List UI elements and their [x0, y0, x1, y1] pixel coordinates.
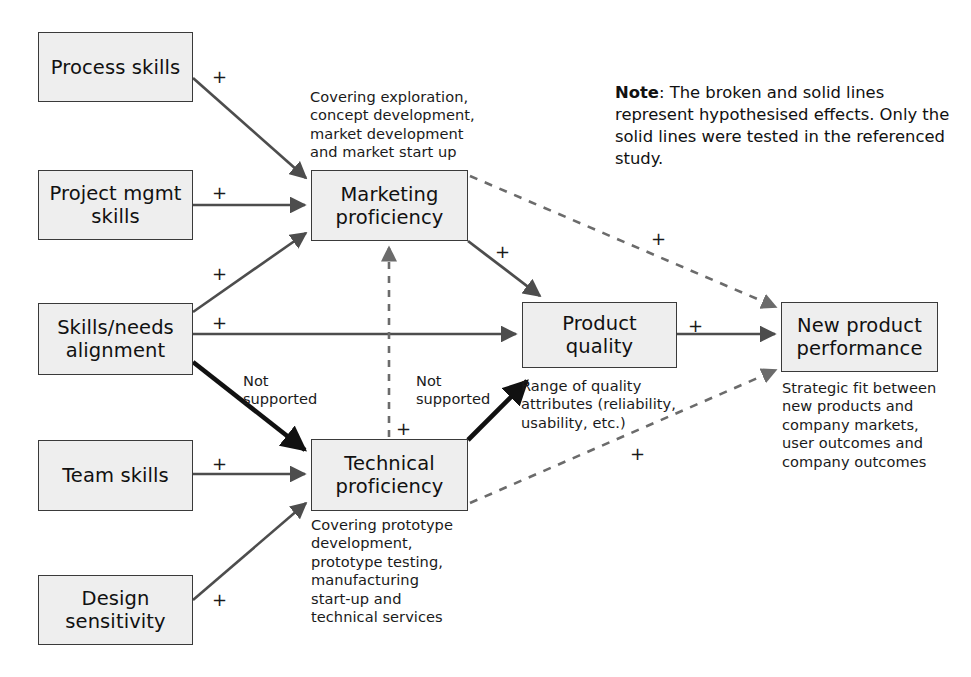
node-process-skills[interactable]: Process skills [38, 32, 193, 102]
edge-label-technical-to-newproduct: + [630, 445, 645, 463]
annotation-product-quality: Range of quality attributes (reliability… [521, 377, 676, 432]
edge-label-marketing-to-newproduct: + [651, 230, 666, 248]
note-block: Note: The broken and solid lines represe… [615, 82, 965, 170]
edge-label-marketing-to-productquality: + [495, 243, 510, 261]
edge-process-skills-to-marketing-proficiency [193, 78, 306, 178]
node-label-design-sensitivity: Design sensitivity [59, 587, 171, 633]
node-design-sensitivity[interactable]: Design sensitivity [38, 575, 193, 645]
edge-label-skillsneeds-to-marketing: + [212, 265, 227, 283]
node-marketing-proficiency[interactable]: Marketing proficiency [311, 170, 468, 241]
node-label-product-quality: Product quality [556, 312, 643, 358]
node-label-team-skills: Team skills [56, 464, 175, 487]
edge-label-skillsneeds-to-technical: Not supported [243, 372, 317, 408]
node-project-mgmt-skills[interactable]: Project mgmt skills [38, 170, 193, 240]
annotation-technical-proficiency: Covering prototype development, prototyp… [311, 516, 453, 626]
edge-marketing-proficiency-to-new-product-performance [470, 176, 776, 307]
edge-label-technical-to-marketing: + [396, 420, 411, 438]
node-team-skills[interactable]: Team skills [38, 440, 193, 511]
node-label-new-product-performance: New product performance [791, 314, 929, 360]
note-separator: : [659, 83, 670, 102]
edge-skills-needs-alignment-to-marketing-proficiency [193, 233, 306, 312]
node-product-quality[interactable]: Product quality [522, 302, 677, 368]
edge-label-technical-to-productquality: Not supported [416, 372, 490, 408]
note-label: Note [615, 83, 659, 102]
node-technical-proficiency[interactable]: Technical proficiency [311, 439, 468, 511]
node-new-product-performance[interactable]: New product performance [781, 302, 938, 372]
edge-label-design-to-technical: + [212, 591, 227, 609]
node-label-marketing-proficiency: Marketing proficiency [329, 183, 449, 229]
annotation-new-product-performance: Strategic fit between new products and c… [782, 379, 936, 471]
node-label-technical-proficiency: Technical proficiency [329, 452, 449, 498]
edge-label-team-to-technical: + [212, 455, 227, 473]
edge-design-sensitivity-to-technical-proficiency [193, 503, 306, 600]
node-skills-needs-alignment[interactable]: Skills/needs alignment [38, 303, 193, 375]
edge-label-productquality-to-newproduct: + [688, 317, 703, 335]
node-label-project-mgmt-skills: Project mgmt skills [43, 182, 187, 228]
diagram-canvas: Process skills Project mgmt skills Skill… [0, 0, 971, 677]
node-label-skills-needs-alignment: Skills/needs alignment [51, 316, 180, 362]
annotation-marketing-proficiency: Covering exploration, concept developmen… [310, 88, 475, 162]
edge-label-skillsneeds-to-productquality: + [212, 314, 227, 332]
edge-label-projectmgmt-to-marketing: + [212, 184, 227, 202]
edge-label-process-to-marketing: + [212, 68, 227, 86]
node-label-process-skills: Process skills [45, 56, 186, 79]
